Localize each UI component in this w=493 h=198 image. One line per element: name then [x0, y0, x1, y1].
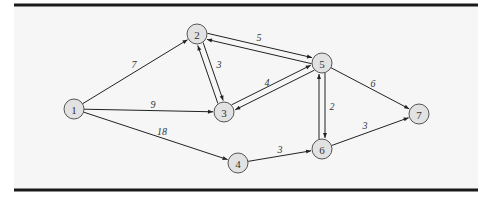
edge-weight-label: 9	[151, 99, 156, 110]
node-label: 5	[319, 58, 325, 70]
edge-weight-label: 18	[157, 126, 167, 137]
node-3: 3	[214, 102, 234, 122]
node-1: 1	[64, 99, 84, 119]
node-label: 4	[235, 158, 241, 170]
node-label: 1	[71, 104, 77, 116]
node-label: 2	[194, 29, 200, 41]
node-label: 3	[221, 107, 227, 119]
edge-weight-label: 5	[257, 32, 262, 43]
node-2: 2	[187, 24, 207, 44]
edge-weight-label: 3	[362, 120, 368, 131]
edge-weight-label: 2	[330, 101, 335, 112]
node-6: 6	[312, 139, 332, 159]
node-label: 6	[319, 144, 325, 156]
node-4: 4	[228, 153, 248, 173]
edge-weight-label: 6	[371, 78, 376, 89]
node-7: 7	[409, 104, 429, 124]
node-5: 5	[312, 53, 332, 73]
edge-weight-label: 3	[277, 144, 283, 155]
edge-weight-label: 3	[216, 59, 222, 70]
network-diagram: 79185342633 1234567	[0, 0, 493, 198]
node-label: 7	[416, 109, 422, 121]
edge-weight-label: 4	[265, 77, 270, 88]
